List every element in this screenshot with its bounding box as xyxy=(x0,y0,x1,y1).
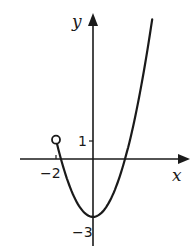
y-axis-label: y xyxy=(71,11,82,31)
x-tick-label-neg2: −2 xyxy=(40,165,61,181)
y-tick-label-neg3: −3 xyxy=(72,224,93,240)
open-endpoint-circle xyxy=(52,136,60,144)
parabola-curve xyxy=(56,19,152,217)
x-axis-arrow-icon xyxy=(178,154,190,164)
function-graph: y x 1 −2 −3 xyxy=(0,0,195,246)
graph-canvas: y x 1 −2 −3 xyxy=(0,0,195,246)
x-axis-label: x xyxy=(172,165,182,185)
y-tick-label-1: 1 xyxy=(78,133,87,149)
y-axis-arrow-icon xyxy=(88,13,98,26)
